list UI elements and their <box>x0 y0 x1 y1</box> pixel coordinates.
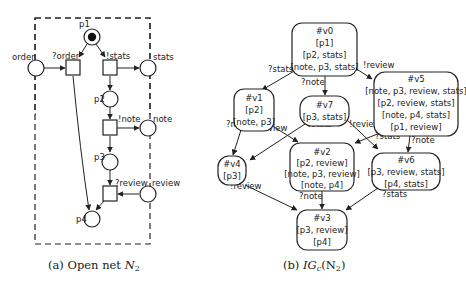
node-v7: #v7 [p3, stats] <box>300 96 349 126</box>
caption-a: (a) Open net N2 <box>48 258 140 273</box>
label-order: order <box>12 52 35 62</box>
label-p1: p1 <box>79 19 90 29</box>
label-note: note <box>153 114 172 124</box>
node-v1: #v1 [p2] [note, p3] <box>233 89 275 131</box>
svg-text:[p3]: [p3] <box>223 171 240 181</box>
svg-text:[p3, review]: [p3, review] <box>297 225 348 235</box>
node-v4: #v4 [p3] <box>218 156 246 185</box>
label-t-stats: !stats <box>106 51 131 61</box>
svg-text:[note, p3, stats]: [note, p3, stats] <box>290 62 358 72</box>
node-v2: #v2 [p2, review] [note, p3, review] [not… <box>284 143 360 191</box>
svg-text:#v7: #v7 <box>316 100 334 110</box>
edge-v1-v4 <box>233 130 241 155</box>
svg-text:[note, p4, stats]: [note, p4, stats] <box>382 110 450 120</box>
caption-b: (b) IGc(N2) <box>283 258 345 273</box>
svg-text:[p2, stats]: [p2, stats] <box>303 50 347 60</box>
transition-review <box>103 186 117 201</box>
place-stats <box>140 60 156 76</box>
token-icon <box>88 33 96 41</box>
edge-label-v0-v5: !review <box>363 60 395 70</box>
edge-label-v0-v7: ?note <box>301 77 325 87</box>
place-order <box>28 60 44 76</box>
svg-text:[p1]: [p1] <box>316 38 333 48</box>
interaction-graph-panel: ?stats ?note !review ?note !review ?stat… <box>218 23 466 273</box>
svg-text:[note, p3, review, stats]: [note, p3, review, stats] <box>365 86 466 96</box>
svg-text:[p1, review]: [p1, review] <box>391 122 442 132</box>
label-stats: stats <box>153 52 174 62</box>
svg-text:#v2: #v2 <box>313 147 331 157</box>
transition-stats <box>103 60 117 75</box>
svg-text:[note, p4]: [note, p4] <box>301 180 343 190</box>
svg-text:[note, p3]: [note, p3] <box>233 117 275 127</box>
label-t-review: ?review <box>115 178 148 188</box>
svg-text:#v6: #v6 <box>397 155 415 165</box>
svg-text:[note, p3, review]: [note, p3, review] <box>284 169 360 179</box>
svg-text:[p2]: [p2] <box>245 105 262 115</box>
edge-label-v2-v3: ?note <box>299 191 323 201</box>
label-t-note: !note <box>118 114 141 124</box>
svg-text:[p2, review, stats]: [p2, review, stats] <box>377 98 454 108</box>
label-t-order: ?order <box>52 51 80 61</box>
svg-text:[p3, review, stats]: [p3, review, stats] <box>367 167 444 177</box>
label-p3: p3 <box>94 152 105 162</box>
node-v5: #v5 [note, p3, review, stats] [p2, revie… <box>365 72 466 136</box>
svg-text:#v3: #v3 <box>313 213 331 223</box>
label-p4: p4 <box>76 214 87 224</box>
svg-text:#v5: #v5 <box>407 74 425 84</box>
svg-text:[p2, review]: [p2, review] <box>297 158 348 168</box>
node-v0: #v0 [p1] [p2, stats] [note, p3, stats] <box>290 23 358 76</box>
label-p2: p2 <box>94 94 105 104</box>
svg-text:#v4: #v4 <box>223 159 241 169</box>
svg-text:#v0: #v0 <box>316 26 334 36</box>
svg-text:[p4]: [p4] <box>313 237 330 247</box>
edge-v6-v3 <box>346 188 378 210</box>
open-net-panel: p1 order ?order !stats stats p2 !note no… <box>12 18 180 273</box>
node-v6: #v6 [p3, review, stats] [p4, stats] <box>367 153 444 190</box>
svg-text:[p4, stats]: [p4, stats] <box>384 179 428 189</box>
transition-order <box>66 60 80 75</box>
svg-text:#v1: #v1 <box>245 93 263 103</box>
node-v3: #v3 [p3, review] [p4] <box>297 210 348 250</box>
transition-note <box>103 120 117 135</box>
figure-canvas: p1 order ?order !stats stats p2 !note no… <box>0 0 466 281</box>
svg-text:[p3, stats]: [p3, stats] <box>303 112 347 122</box>
edge-v5-v6 <box>408 135 410 152</box>
place-review <box>140 186 156 202</box>
label-review: review <box>152 178 180 188</box>
